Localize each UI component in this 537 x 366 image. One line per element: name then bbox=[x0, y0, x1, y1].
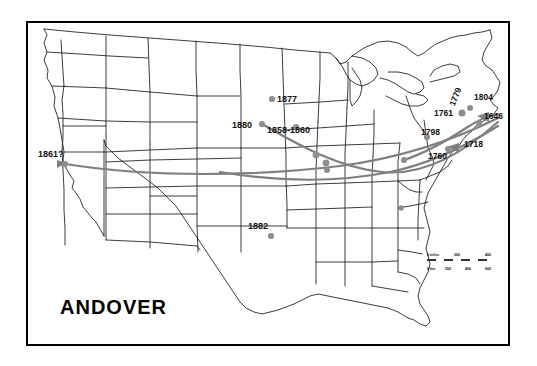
marker-1882 bbox=[268, 233, 274, 239]
marker-newyork bbox=[458, 109, 465, 116]
label-1882: 1882 bbox=[248, 222, 268, 231]
marker-1880 bbox=[259, 121, 265, 127]
scale-bar-track bbox=[427, 259, 495, 262]
migration-routes bbox=[66, 114, 498, 180]
label-1858-1860: 1858-1860 bbox=[267, 126, 310, 135]
label-1761: 1761 bbox=[434, 109, 453, 118]
scale-miles-400: 400 bbox=[485, 254, 491, 258]
scale-km-400: 400 bbox=[465, 268, 471, 272]
scale-miles-label: 0 miles bbox=[427, 254, 439, 258]
scale-km-label: 0 km bbox=[427, 268, 435, 272]
label-1718: 1718 bbox=[464, 140, 483, 149]
marker-massachusetts bbox=[476, 120, 482, 126]
marker-1877 bbox=[269, 96, 275, 102]
scale-km-200: 200 bbox=[445, 268, 451, 272]
scale-bar-miles: 0 miles 200 400 bbox=[427, 254, 497, 264]
marker-ohio bbox=[401, 157, 407, 163]
marker-newengland bbox=[467, 105, 473, 111]
scale-miles-200: 200 bbox=[454, 254, 460, 258]
label-1798: 1798 bbox=[421, 128, 440, 137]
label-1804: 1804 bbox=[474, 93, 493, 102]
scale-bar-km: 0 km 200 400 600 bbox=[427, 266, 497, 276]
page-title: ANDOVER bbox=[60, 296, 167, 319]
marker-illinois-b bbox=[323, 160, 330, 167]
marker-1861 bbox=[62, 161, 68, 167]
place-markers bbox=[62, 96, 482, 239]
scale-km-600: 600 bbox=[485, 268, 491, 272]
label-1646: 1646 bbox=[484, 112, 503, 121]
marker-illinois-a bbox=[313, 152, 320, 159]
label-1880: 1880 bbox=[232, 121, 252, 130]
marker-virginia bbox=[398, 205, 404, 211]
migration-map: 1861? 1877 1880 1858-1860 1882 1761 1779… bbox=[0, 0, 537, 366]
scale-bar: 0 miles 200 400 0 km 200 400 600 bbox=[427, 254, 497, 276]
marker-illinois-c bbox=[324, 167, 330, 173]
label-1861: 1861? bbox=[38, 150, 64, 159]
label-1760: 1760 bbox=[428, 152, 447, 161]
label-1877: 1877 bbox=[277, 95, 297, 104]
